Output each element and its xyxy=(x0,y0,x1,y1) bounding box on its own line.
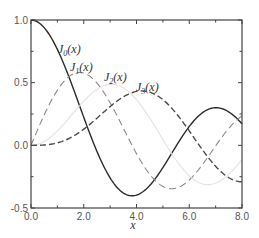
bessel-function-chart: 0.02.04.06.08.0-0.50.00.51.0 x J0(x)J1(x… xyxy=(0,0,259,238)
x-tick-label: 6.0 xyxy=(182,211,196,222)
x-tick-label: 2.0 xyxy=(77,211,91,222)
y-tick-label: 0.0 xyxy=(14,140,28,151)
axis-tick-labels: 0.02.04.06.08.0-0.50.00.51.0 xyxy=(11,15,250,223)
curve-label-j0: J0(x) xyxy=(58,42,81,58)
x-axis-label: x xyxy=(129,218,136,232)
y-tick-label: 0.5 xyxy=(14,77,28,88)
curve-label-j3: J3(x) xyxy=(136,80,159,96)
y-tick-label: -0.5 xyxy=(11,203,29,214)
curve-label-j2: J2(x) xyxy=(104,70,127,86)
y-tick-label: 1.0 xyxy=(14,15,28,26)
curve-j3 xyxy=(31,91,242,182)
x-tick-label: 8.0 xyxy=(235,211,249,222)
curve-j2 xyxy=(31,84,242,184)
curve-label-j1: J1(x) xyxy=(70,60,93,76)
